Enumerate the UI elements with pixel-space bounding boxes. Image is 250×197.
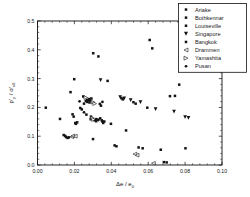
data-point <box>83 111 86 114</box>
data-point <box>169 95 172 98</box>
scatter-chart-figure: 0.000.020.040.060.080.10 0.00.10.20.30.4… <box>0 0 250 197</box>
y-tick-label: 0.1 <box>27 133 34 139</box>
data-point <box>151 47 154 50</box>
legend-item-label: Singapore <box>195 31 221 37</box>
data-point <box>178 83 181 86</box>
data-point <box>88 101 91 104</box>
data-point <box>101 101 104 104</box>
x-tick-label: 0.08 <box>180 168 190 174</box>
data-point <box>137 146 140 149</box>
data-point <box>83 102 86 105</box>
data-point <box>69 91 72 94</box>
data-point <box>159 148 162 151</box>
data-point <box>134 102 137 105</box>
data-point <box>59 118 62 121</box>
y-tick-label: 0.2 <box>27 104 34 110</box>
data-point <box>148 39 151 42</box>
data-point <box>115 145 118 148</box>
data-point <box>106 80 109 83</box>
data-point <box>125 129 128 132</box>
x-tick-label: 0.04 <box>106 168 116 174</box>
legend-item-label: Bothkennar <box>195 15 224 21</box>
legend-item-label: Ariake <box>195 7 211 13</box>
legend-marker-icon <box>185 65 188 68</box>
data-point <box>110 123 113 126</box>
data-point <box>45 106 48 109</box>
data-point <box>87 99 90 102</box>
data-point <box>97 55 100 58</box>
legend-item-label: Louiseville <box>195 23 221 29</box>
data-point <box>92 52 95 55</box>
y-tick-label: 0.5 <box>27 18 34 24</box>
data-point <box>76 121 79 124</box>
data-point <box>165 161 168 164</box>
x-tick-label: 0.06 <box>143 168 153 174</box>
chart-canvas: 0.000.020.040.060.080.10 0.00.10.20.30.4… <box>0 0 250 197</box>
data-point <box>72 115 75 118</box>
chart-legend[interactable]: AriakeBothkennarLouisevilleSingaporeBang… <box>179 4 247 73</box>
legend-item-label: Yamashita <box>195 55 222 61</box>
data-point <box>163 161 166 164</box>
data-point <box>100 104 103 107</box>
data-point <box>132 101 135 104</box>
legend-marker-icon <box>185 16 188 19</box>
data-point <box>73 78 76 81</box>
data-point <box>97 119 100 122</box>
data-point <box>81 108 84 111</box>
data-point <box>141 147 144 150</box>
legend-marker-icon <box>185 8 188 11</box>
data-point <box>71 113 74 116</box>
data-point <box>78 100 81 103</box>
data-point <box>146 106 149 109</box>
legend-marker-icon <box>185 25 188 28</box>
data-point <box>174 95 177 98</box>
x-tick-label: 0.00 <box>32 168 42 174</box>
data-point <box>103 120 106 123</box>
x-tick-label: 0.02 <box>69 168 79 174</box>
y-tick-label: 0.0 <box>27 162 34 168</box>
data-point <box>184 147 187 150</box>
legend-item-label: Drammen <box>195 47 220 53</box>
data-point <box>85 113 88 116</box>
legend-item-label: Bangkok <box>195 39 217 45</box>
legend-item-label: Pusan <box>195 63 211 69</box>
x-tick-label: 0.10 <box>217 168 227 174</box>
legend-marker-icon <box>185 41 188 44</box>
y-tick-label: 0.4 <box>27 47 34 53</box>
data-point <box>90 97 93 100</box>
y-tick-label: 0.3 <box>27 76 34 82</box>
data-point <box>92 138 95 141</box>
